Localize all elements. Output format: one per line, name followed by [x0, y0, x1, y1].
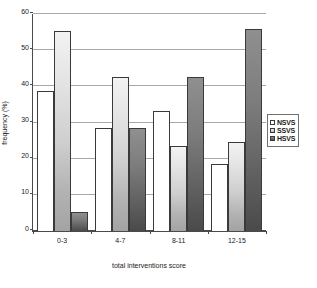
bar-nsvs-8-11: [153, 111, 170, 231]
bar-nsvs-4-7: [95, 128, 112, 231]
bar-chart-figure: frequency (%) 0102030405060 0-34-78-1112…: [0, 0, 317, 288]
y-tick-mark: [30, 12, 33, 13]
legend-swatch-ssvs: [270, 128, 275, 133]
legend-entry-nsvs: NSVS: [270, 119, 295, 126]
legend-label-ssvs: SSVS: [277, 127, 295, 134]
legend-swatch-nsvs: [270, 120, 275, 125]
bar-group-0-3: 0-3: [33, 14, 91, 231]
legend-entry-ssvs: SSVS: [270, 127, 295, 134]
y-tick-label: 60: [21, 7, 29, 14]
legend-swatch-hsvs: [270, 136, 275, 141]
bar-ssvs-12-15: [228, 142, 245, 231]
bar-hsvs-12-15: [245, 29, 262, 231]
x-tick-label-0-3: 0-3: [57, 237, 67, 244]
bar-group-8-11: 8-11: [150, 14, 208, 231]
bar-hsvs-4-7: [129, 128, 146, 231]
plot-area: 0102030405060 0-34-78-1112-15: [32, 14, 266, 232]
bar-ssvs-8-11: [170, 146, 187, 231]
bar-nsvs-12-15: [211, 164, 228, 231]
legend-entry-hsvs: HSVS: [270, 135, 295, 142]
bar-hsvs-8-11: [187, 77, 204, 231]
y-tick-label: 50: [21, 43, 29, 50]
x-tick-mark: [150, 231, 151, 234]
legend-label-hsvs: HSVS: [277, 135, 295, 142]
x-tick-label-12-15: 12-15: [228, 237, 246, 244]
y-tick-label: 30: [21, 116, 29, 123]
bar-hsvs-0-3: [71, 212, 88, 231]
bar-ssvs-0-3: [54, 31, 71, 231]
y-tick-label: 0: [25, 224, 29, 231]
bar-group-4-7: 4-7: [91, 14, 149, 231]
x-axis-title: total interventions score: [32, 262, 266, 269]
x-tick-label-4-7: 4-7: [115, 237, 125, 244]
x-tick-mark: [208, 231, 209, 234]
bar-group-12-15: 12-15: [208, 14, 266, 231]
bar-ssvs-4-7: [112, 77, 129, 231]
y-tick-label: 20: [21, 152, 29, 159]
x-tick-mark: [33, 231, 34, 234]
x-tick-label-8-11: 8-11: [172, 237, 186, 244]
x-tick-mark: [266, 231, 267, 234]
y-tick-label: 10: [21, 188, 29, 195]
y-axis-title: frequency (%): [1, 101, 8, 145]
y-tick-label: 40: [21, 79, 29, 86]
bar-nsvs-0-3: [37, 91, 54, 231]
legend-label-nsvs: NSVS: [277, 119, 295, 126]
bars-layer: 0-34-78-1112-15: [33, 14, 266, 231]
x-tick-mark: [91, 231, 92, 234]
chart-legend: NSVSSSVSHSVS: [267, 114, 299, 147]
